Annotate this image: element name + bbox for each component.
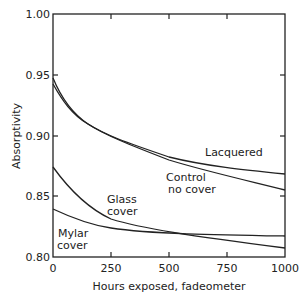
control-label-line2: no cover	[168, 183, 216, 196]
x-tick-label: 750	[217, 262, 238, 275]
x-tick-label: 500	[159, 262, 180, 275]
mylar-label-line2: cover	[57, 239, 88, 252]
y-axis-title: Absorptivity	[10, 102, 23, 169]
x-ticks	[111, 14, 227, 257]
lacquered-label: Lacquered	[205, 146, 263, 159]
x-tick-label: 0	[50, 262, 57, 275]
y-tick-label: 0.90	[26, 130, 51, 143]
y-tick-label: 0.85	[26, 190, 51, 203]
x-axis-title: Hours exposed, fadeometer	[92, 280, 246, 293]
glass-label-line2: cover	[107, 205, 138, 218]
x-tick-labels: 0 250 500 750 1000	[50, 262, 300, 275]
y-tick-labels: 1.00 0.95 0.90 0.85 0.80	[26, 8, 51, 264]
x-tick-label: 1000	[271, 262, 299, 275]
y-tick-label: 1.00	[26, 8, 51, 21]
plot-frame	[53, 14, 285, 257]
y-tick-label: 0.95	[26, 69, 51, 82]
x-tick-label: 250	[101, 262, 122, 275]
y-tick-label: 0.80	[26, 251, 51, 264]
absorptivity-chart: 1.00 0.95 0.90 0.85 0.80 0 250 500 750 1…	[0, 0, 305, 299]
